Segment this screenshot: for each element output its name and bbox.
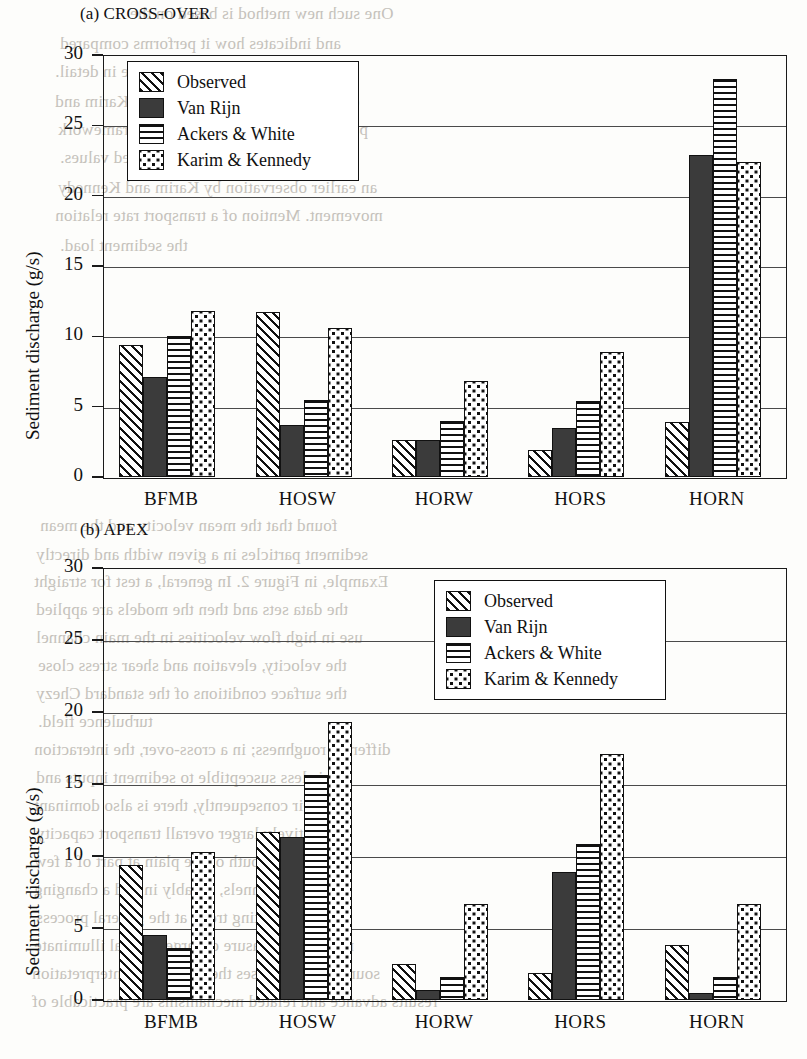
bar xyxy=(600,352,624,477)
legend-swatch-horizontal-hatch xyxy=(446,643,471,663)
bar xyxy=(689,993,713,1000)
y-axis-tick xyxy=(92,567,103,569)
y-axis-tick-label: 25 xyxy=(43,112,83,134)
bar xyxy=(528,450,552,477)
bar xyxy=(464,904,488,1000)
legend-a: ObservedVan RijnAckers & WhiteKarim & Ke… xyxy=(127,61,359,181)
bar xyxy=(737,162,761,477)
y-axis-tick xyxy=(92,999,103,1001)
y-axis-tick xyxy=(92,125,103,127)
legend-item: Ackers & White xyxy=(139,121,346,147)
y-axis-tick-label: 0 xyxy=(43,464,83,486)
bar xyxy=(328,722,352,1000)
y-axis-tick-label: 15 xyxy=(43,253,83,275)
bar xyxy=(689,155,713,477)
bar xyxy=(576,401,600,477)
bar xyxy=(280,425,304,477)
y-axis-tick xyxy=(92,783,103,785)
legend-swatch-solid-fill xyxy=(139,98,164,118)
x-axis-label: HORS xyxy=(512,488,648,510)
bar xyxy=(191,852,215,1000)
y-axis-tick xyxy=(92,195,103,197)
y-axis-tick-label: 20 xyxy=(43,699,83,721)
legend-item: Ackers & White xyxy=(446,640,653,666)
legend-b: ObservedVan RijnAckers & WhiteKarim & Ke… xyxy=(434,580,666,700)
chart-panel-apex: (b) APEX Sediment discharge (g/s) 051015… xyxy=(0,514,807,1059)
y-axis-tick-label: 30 xyxy=(43,555,83,577)
y-axis-tick xyxy=(92,476,103,478)
legend-swatch-diagonal-hatch xyxy=(446,591,471,611)
legend-item: Observed xyxy=(139,69,346,95)
bar xyxy=(167,948,191,1000)
bar xyxy=(576,844,600,1000)
y-axis-tick-label: 5 xyxy=(43,394,83,416)
legend-swatch-dotted-fill xyxy=(139,150,164,170)
y-axis-tick-label: 10 xyxy=(43,323,83,345)
x-axis-label: HORN xyxy=(649,488,785,510)
legend-label: Karim & Kennedy xyxy=(484,670,618,688)
y-axis-tick xyxy=(92,336,103,338)
bar xyxy=(392,440,416,477)
bar xyxy=(440,977,464,1000)
y-axis-tick xyxy=(92,927,103,929)
bar xyxy=(600,754,624,1000)
bar xyxy=(167,336,191,477)
bar xyxy=(737,904,761,1000)
bar xyxy=(304,775,328,1000)
y-axis-tick-label: 10 xyxy=(43,843,83,865)
y-axis-tick-label: 0 xyxy=(43,987,83,1009)
bar xyxy=(143,377,167,477)
x-axis-label: HOSW xyxy=(239,1011,375,1033)
bar xyxy=(191,311,215,477)
y-axis-tick xyxy=(92,406,103,408)
y-axis-tick-label: 5 xyxy=(43,915,83,937)
x-axis-label: HORS xyxy=(512,1011,648,1033)
bar xyxy=(256,312,280,477)
bar xyxy=(143,935,167,1000)
x-axis-label: HORW xyxy=(376,1011,512,1033)
legend-label: Karim & Kennedy xyxy=(177,151,311,169)
bar xyxy=(416,990,440,1000)
bar xyxy=(552,428,576,477)
y-axis-tick-label: 30 xyxy=(43,42,83,64)
bar xyxy=(713,977,737,1000)
x-axis-label: HORW xyxy=(376,488,512,510)
bar xyxy=(304,400,328,477)
legend-label: Observed xyxy=(177,73,246,91)
bar xyxy=(665,945,689,1000)
legend-label: Van Rijn xyxy=(484,618,548,636)
legend-swatch-solid-fill xyxy=(446,617,471,637)
y-axis-tick xyxy=(92,639,103,641)
x-axis-label: HORN xyxy=(649,1011,785,1033)
bar xyxy=(392,964,416,1000)
bar xyxy=(528,973,552,1000)
legend-item: Karim & Kennedy xyxy=(139,147,346,173)
legend-item: Van Rijn xyxy=(446,614,653,640)
y-axis-tick xyxy=(92,855,103,857)
y-axis-tick-label: 25 xyxy=(43,627,83,649)
y-axis-tick xyxy=(92,54,103,56)
legend-item: Van Rijn xyxy=(139,95,346,121)
y-axis-tick xyxy=(92,265,103,267)
legend-swatch-dotted-fill xyxy=(446,669,471,689)
x-axis-label: BFMB xyxy=(103,1011,239,1033)
legend-label: Ackers & White xyxy=(177,125,295,143)
legend-item: Karim & Kennedy xyxy=(446,666,653,692)
y-axis-tick-label: 20 xyxy=(43,183,83,205)
bar xyxy=(416,440,440,477)
legend-swatch-horizontal-hatch xyxy=(139,124,164,144)
bar xyxy=(665,422,689,477)
legend-label: Van Rijn xyxy=(177,99,241,117)
bar xyxy=(280,837,304,1000)
bar xyxy=(552,872,576,1000)
x-axis-label: BFMB xyxy=(103,488,239,510)
bar xyxy=(464,381,488,477)
legend-label: Ackers & White xyxy=(484,644,602,662)
bar xyxy=(119,345,143,477)
bar xyxy=(713,79,737,477)
x-axis-label: HOSW xyxy=(239,488,375,510)
legend-swatch-diagonal-hatch xyxy=(139,72,164,92)
y-axis-tick-label: 15 xyxy=(43,771,83,793)
bar xyxy=(328,328,352,477)
bar xyxy=(119,865,143,1000)
